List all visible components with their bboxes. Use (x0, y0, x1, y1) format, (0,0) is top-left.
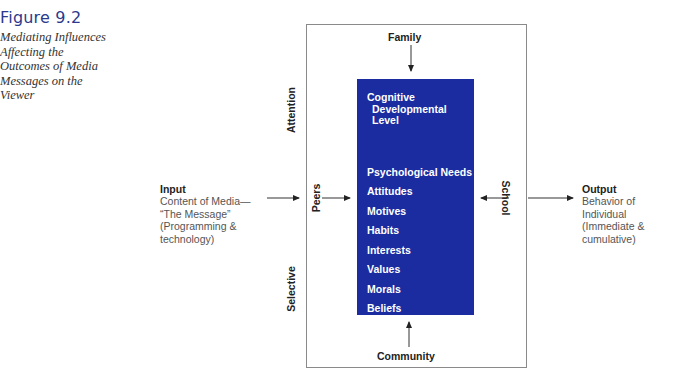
diagram-arrows (0, 0, 686, 390)
